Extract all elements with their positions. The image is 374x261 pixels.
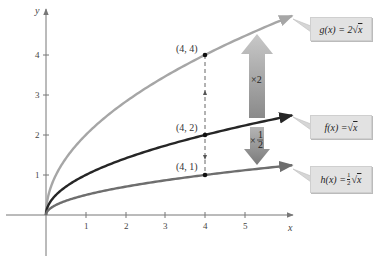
times-two-arrow-icon: ×2	[241, 34, 273, 118]
point-label-4-1: (4, 1)	[176, 161, 198, 173]
point-4-4	[203, 53, 208, 58]
x-tick-4: 4	[203, 221, 208, 231]
legend-g-lhs: g(x) = 2	[320, 24, 353, 35]
callout-pointer-h	[293, 169, 311, 182]
y-tick-3: 3	[35, 90, 40, 100]
legend-g: g(x) = 2√x	[310, 17, 372, 41]
legend-g-radicand: x	[358, 24, 362, 35]
legend-f-lhs: f(x) =	[324, 122, 347, 133]
y-tick-1: 1	[35, 170, 40, 180]
callout-pointer-f	[293, 117, 311, 130]
x-tick-3: 3	[163, 221, 168, 231]
point-label-4-4: (4, 4)	[176, 43, 198, 55]
y-ticks: 1 2 3 4	[35, 50, 49, 180]
legend-f: f(x) = √x	[310, 115, 372, 139]
y-tick-4: 4	[35, 50, 40, 60]
times-half-arrow-icon: × 1 2	[244, 127, 270, 165]
times-two-label: ×2	[251, 74, 262, 85]
dashed-connector	[203, 55, 207, 175]
legend-h-fraction: 1 2	[347, 172, 351, 187]
callout-pointer-g	[293, 19, 311, 32]
y-tick-2: 2	[35, 130, 40, 140]
point-4-1	[203, 173, 208, 178]
half-denominator: 2	[258, 139, 263, 150]
x-tick-2: 2	[124, 221, 129, 231]
point-4-2	[203, 133, 208, 138]
x-axis-label: x	[287, 222, 293, 233]
legend-h-radicand: x	[357, 174, 361, 185]
y-axis-label: y	[34, 5, 40, 16]
x-tick-5: 5	[243, 221, 248, 231]
legend-h-frac-den: 2	[347, 180, 351, 187]
legend-f-radicand: x	[353, 122, 357, 133]
x-tick-1: 1	[84, 221, 89, 231]
curve-h	[46, 165, 292, 215]
legend-h: h(x) = 1 2 √x	[310, 166, 372, 193]
legend-h-lhs: h(x) =	[321, 174, 346, 185]
times-half-prefix: ×	[250, 135, 256, 146]
point-label-4-2: (4, 2)	[176, 122, 198, 134]
